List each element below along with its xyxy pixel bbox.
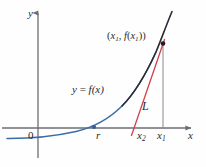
curve-equation-label: y = f(x): [72, 84, 104, 95]
root-tick-label: r: [96, 130, 100, 141]
curve-label-equals: =: [77, 83, 89, 95]
x2-tick-label: x2: [137, 130, 146, 143]
point-x1-dot: [161, 41, 166, 46]
function-curve-blue: [7, 52, 156, 139]
x1-tick-label: x1: [157, 130, 166, 143]
curve-label-arg: (x): [92, 83, 104, 95]
origin-label: 0: [28, 130, 34, 141]
pt-close-paren: ): [142, 30, 146, 41]
y-axis-label: y: [28, 8, 33, 19]
x2-subscript: 2: [142, 134, 146, 143]
newton-method-figure: y x 0 r x2 x1 L y = f(x) (x1, f(x1)): [0, 0, 206, 167]
x1-subscript: 1: [162, 134, 166, 143]
x-axis-label: x: [188, 130, 193, 141]
point-coordinate-label: (x1, f(x1)): [107, 31, 146, 43]
tangent-line-label: L: [142, 100, 149, 112]
